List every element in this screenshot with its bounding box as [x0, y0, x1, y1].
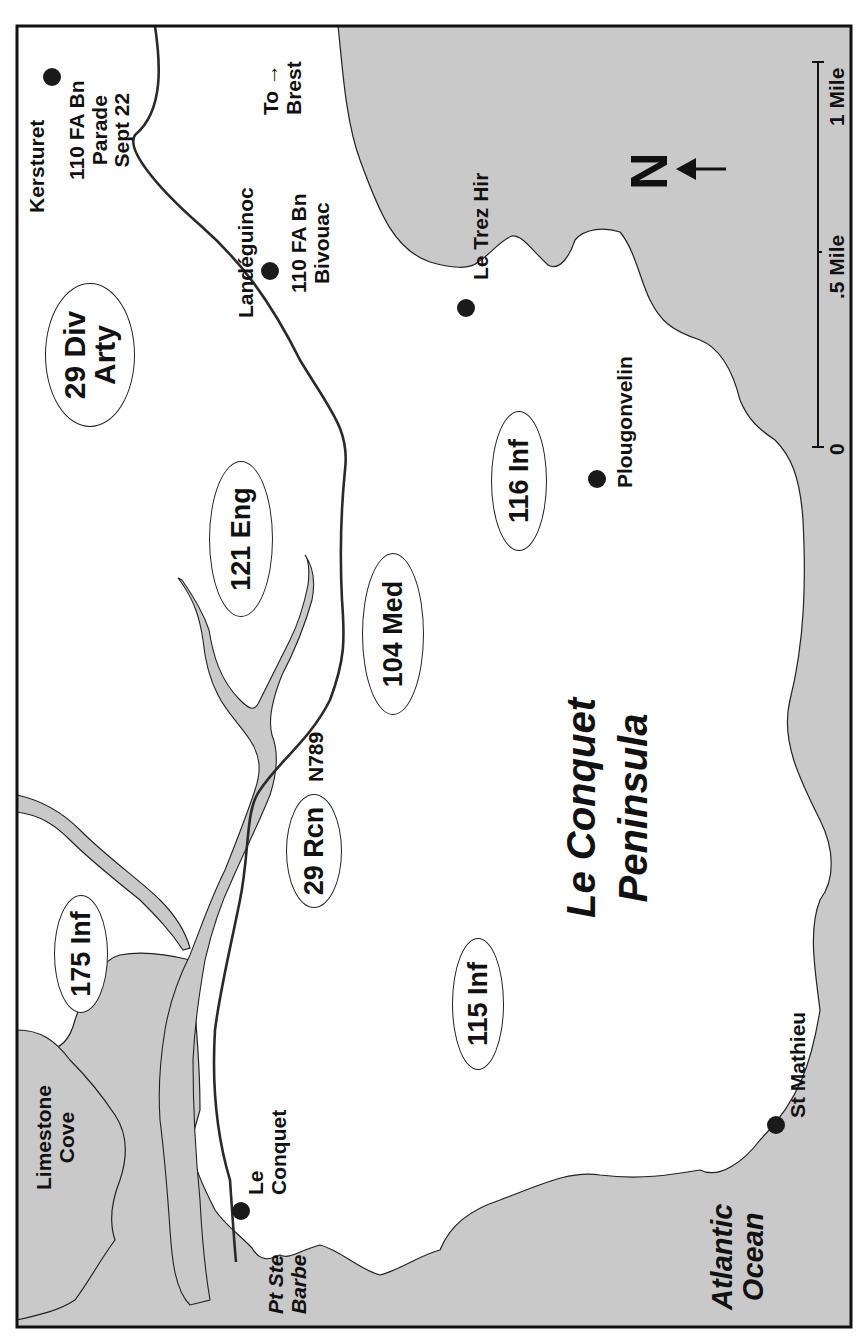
unit-115-inf-label: 115 Inf	[465, 962, 492, 1046]
town-marker-le-trez-hir	[457, 299, 475, 317]
unit-oval-115-inf: 115 Inf	[452, 938, 504, 1070]
annotation-parade-line2: Parade	[89, 80, 112, 180]
unit-oval-29-div-arty: 29 Div Arty	[45, 283, 135, 427]
region-label-le-conquet-peninsula: Le Conquet Peninsula	[555, 698, 659, 918]
road-label-n789: N789	[305, 732, 328, 782]
water-label-limestone-cove-line1: Limestone	[33, 1085, 56, 1190]
place-label-le-conquet-line1: Le	[245, 1110, 268, 1195]
place-label-le-conquet: Le Conquet	[245, 1110, 290, 1195]
water-label-limestone-cove-line2: Cove	[56, 1085, 79, 1190]
town-marker-kersturet	[43, 68, 61, 86]
annotation-bivouac-line1: 110 FA Bn	[288, 193, 311, 293]
unit-oval-116-inf: 116 Inf	[491, 411, 547, 551]
annotation-parade-line1: 110 FA Bn	[66, 80, 89, 180]
unit-116-inf-label: 116 Inf	[506, 439, 533, 523]
water-label-atlantic-line1: Atlantic	[707, 1204, 738, 1310]
scale-label-one-mile: 1 Mile	[826, 68, 849, 126]
scale-label-half-mile: .5 Mile	[826, 235, 849, 299]
place-label-st-mathieu: St Mathieu	[787, 1012, 810, 1118]
place-label-kersturet: Kersturet	[26, 120, 49, 213]
compass-north-label: N	[621, 152, 677, 190]
place-label-le-conquet-line2: Conquet	[268, 1110, 291, 1195]
annotation-to-brest: To → Brest	[260, 61, 305, 115]
unit-oval-175-inf: 175 Inf	[54, 895, 108, 1013]
scale-label-0: 0	[826, 443, 849, 455]
region-label-line1: Le Conquet	[555, 698, 607, 918]
unit-29-div-arty-line2: Arty	[90, 311, 120, 399]
unit-oval-121-eng: 121 Eng	[209, 461, 273, 617]
town-marker-landeguinoc	[261, 262, 279, 280]
annotation-bivouac: 110 FA Bn Bivouac	[288, 193, 333, 293]
unit-104-med-label: 104 Med	[380, 581, 407, 688]
town-marker-plougonvelin	[588, 470, 606, 488]
unit-oval-104-med: 104 Med	[362, 553, 424, 715]
annotation-parade: 110 FA Bn Parade Sept 22	[66, 80, 134, 180]
annotation-parade-line3: Sept 22	[111, 80, 134, 180]
water-label-limestone-cove: Limestone Cove	[33, 1085, 78, 1190]
place-label-plougonvelin: Plougonvelin	[614, 356, 637, 488]
unit-oval-29-rcn: 29 Rcn	[286, 794, 342, 908]
annotation-bivouac-line2: Bivouac	[311, 193, 334, 293]
place-label-le-trez-hir: Le Trez Hir	[470, 173, 493, 280]
annotation-to-brest-line2: Brest	[283, 61, 306, 115]
place-label-landeguinoc: Landéguinoc	[235, 187, 258, 318]
unit-175-inf-label: 175 Inf	[68, 911, 95, 997]
water-label-atlantic-ocean: Atlantic Ocean	[707, 1204, 770, 1310]
map-canvas	[0, 0, 868, 1343]
unit-121-eng-label: 121 Eng	[228, 487, 255, 591]
water-label-pt-ste-barbe: Pt Ste Barbe	[265, 1254, 310, 1314]
town-marker-st-mathieu	[767, 1116, 785, 1134]
town-marker-le-conquet	[232, 1202, 250, 1220]
water-label-pt-ste-barbe-line2: Barbe	[288, 1254, 311, 1314]
annotation-to-brest-line1: To →	[260, 61, 283, 115]
region-label-line2: Peninsula	[607, 698, 659, 918]
water-label-pt-ste-barbe-line1: Pt Ste	[265, 1254, 288, 1314]
unit-29-div-arty-line1: 29 Div	[60, 311, 90, 399]
water-label-atlantic-line2: Ocean	[738, 1204, 769, 1310]
unit-29-rcn-label: 29 Rcn	[301, 807, 328, 896]
